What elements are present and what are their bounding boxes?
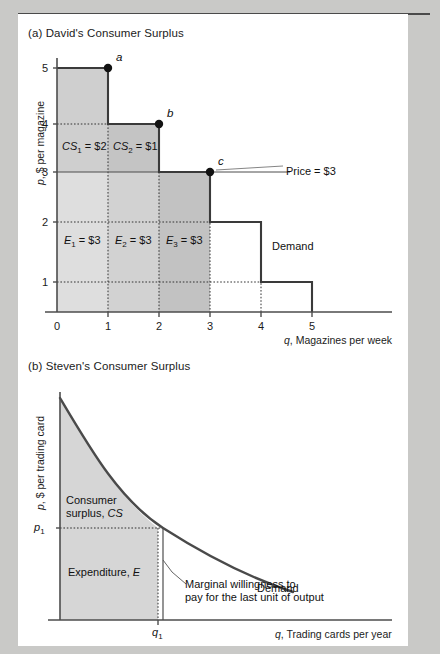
marginal-willingness-annotation: Marginal willingness to pay for the last… bbox=[185, 578, 324, 604]
panel-b-y-axis-label: p, $ per trading card bbox=[34, 416, 46, 510]
annotation-line-2: pay for the last unit of output bbox=[185, 591, 324, 603]
expenditure-label: Expenditure, E bbox=[68, 566, 140, 579]
p1-tick-label: p1 bbox=[34, 521, 45, 538]
panel-b-plot bbox=[0, 0, 440, 654]
q1-tick-label: q1 bbox=[152, 626, 163, 643]
annotation-leader-line bbox=[163, 560, 186, 584]
panel-b-x-axis-label: q, Trading cards per year bbox=[275, 628, 392, 640]
consumer-surplus-label: Consumer surplus, CS bbox=[66, 494, 123, 520]
annotation-line-1: Marginal willingness to bbox=[185, 578, 296, 590]
consumer-surplus-label-line1: Consumer bbox=[66, 494, 117, 506]
